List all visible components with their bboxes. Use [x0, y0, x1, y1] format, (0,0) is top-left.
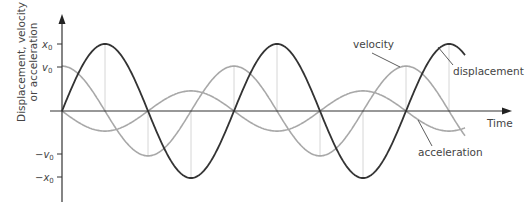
- displacement-leader-line: [438, 47, 453, 65]
- displacement-annotation: displacement: [453, 65, 524, 77]
- tick-label-neg-v0: −v0: [35, 149, 54, 162]
- tick-label-x0: x0: [41, 39, 52, 52]
- x-axis-arrow-icon: [502, 108, 512, 115]
- svg-text:or acceleration: or acceleration: [27, 23, 39, 102]
- velocity-annotation: velocity: [353, 38, 394, 50]
- velocity-leader-line: [372, 53, 400, 67]
- shm-chart: x0 v0 −v0 −x0 Displacement, velocity or …: [0, 0, 527, 210]
- y-axis-label: Displacement, velocity or acceleration: [15, 2, 39, 122]
- tick-label-v0: v0: [42, 62, 52, 75]
- tick-label-neg-x0: −x0: [35, 172, 54, 185]
- svg-text:Displacement, velocity: Displacement, velocity: [15, 2, 27, 122]
- acceleration-annotation: acceleration: [418, 146, 483, 158]
- y-axis-arrow-icon: [59, 14, 66, 24]
- x-axis-label: Time: [486, 117, 513, 129]
